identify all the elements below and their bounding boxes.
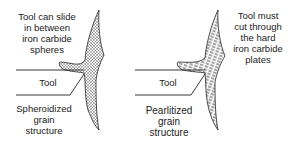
left-annotation: Tool can slide in between iron carbide s…: [8, 11, 86, 55]
right-tool-label: Tool: [148, 77, 188, 88]
chip-formation-diagram: Tool can slide in between iron carbide s…: [0, 0, 295, 146]
left-structure-label: Spheroidized grain structure: [10, 103, 78, 136]
right-annotation: Tool must cut through the hard iron carb…: [226, 10, 290, 65]
left-tool-label: Tool: [28, 77, 68, 88]
right-structure-label: Pearlitized grain structure: [136, 105, 202, 138]
